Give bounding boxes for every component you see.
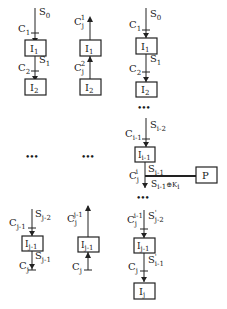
column-1: S0 C1 I1 S1 C2 I2 ••• Sj-2 Cj-1 Ij-1 Sj-… [9, 6, 51, 274]
arrow-head-icon [143, 33, 149, 38]
label-cj: Cj [72, 261, 82, 275]
label-cj2: Cj2 [74, 60, 85, 76]
label-s'j-2: S'j-2 [148, 209, 164, 224]
label-s'i-1: S'i-1 [148, 253, 164, 268]
arrow-head-icon [141, 277, 147, 282]
ellipsis: ••• [81, 152, 94, 162]
label-cj: Cj [19, 260, 29, 274]
label-sj-2: Sj-2 [35, 208, 51, 222]
arrow-up-icon [87, 16, 93, 22]
arrow-up-icon [85, 205, 91, 211]
label-cji: Cji [129, 168, 139, 184]
arrow-up-icon [87, 56, 93, 62]
ellipsis: ••• [25, 152, 38, 162]
label-c1: C1 [129, 19, 141, 33]
diagram-canvas: S0 C1 I1 S1 C2 I2 ••• Sj-2 Cj-1 Ij-1 Sj-… [0, 0, 227, 309]
label-cj1: Cj1 [74, 14, 85, 30]
label-c2: C2 [18, 62, 30, 76]
label-cji-1: Cji-1 [127, 212, 143, 228]
arrow-head-icon [143, 142, 149, 147]
arrow-head-icon [141, 233, 147, 238]
label-cjj-1: Cjj-1 [67, 211, 83, 227]
arrow-head-icon [143, 77, 149, 82]
label-s0: S0 [39, 6, 50, 20]
label-c1: C1 [18, 23, 30, 37]
ellipsis-2: ••• [136, 193, 149, 203]
arrow-head-icon [29, 231, 35, 236]
label-si-2: Si-2 [150, 119, 166, 133]
label-s1: S1 [150, 53, 161, 67]
label-p: P [202, 170, 209, 181]
label-c2: C2 [129, 63, 141, 77]
label-cj: Cj [128, 261, 138, 275]
label-si-1: Si-1 [148, 163, 164, 177]
arrow-head-icon [142, 183, 148, 188]
arrow-up-icon [85, 252, 91, 258]
column-2: Cj1 I1 Cj2 I2 ••• Cjj-1 Ij-1 Cj [67, 14, 101, 275]
label-s0: S0 [150, 8, 161, 22]
label-cj-1: Cj-1 [9, 217, 26, 231]
column-3: S0 C1 I1 S1 C2 I2 ••• Si-2 Ci-1 Ii-1 Si-… [125, 8, 217, 299]
label-branch-key: Si-1⊕Ki [151, 179, 180, 191]
label-sj-1: Sj-1 [35, 250, 51, 264]
label-ci-1: Ci-1 [125, 128, 142, 142]
arrow-head-icon [29, 264, 35, 269]
label-s1: S1 [39, 54, 50, 68]
ellipsis-1: ••• [137, 103, 150, 113]
